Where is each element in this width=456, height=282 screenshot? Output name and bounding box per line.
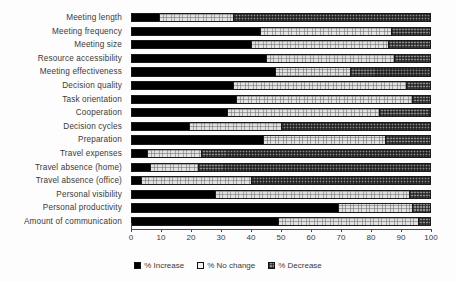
stacked-bar — [131, 95, 431, 104]
stacked-bar — [131, 149, 431, 158]
x-axis-tick — [221, 229, 222, 233]
bar-segment — [379, 109, 430, 116]
bar-segment — [141, 177, 251, 184]
category-label: Travel expenses — [0, 147, 126, 161]
category-label: Personal productivity — [0, 201, 126, 215]
bar-segment — [233, 82, 406, 89]
x-axis-tick — [161, 229, 162, 233]
bar-segment — [281, 123, 430, 130]
bar-segment — [150, 164, 198, 171]
stacked-bar — [131, 203, 431, 212]
legend-label: % No change — [207, 261, 255, 270]
bar-segment — [132, 82, 233, 89]
chart-legend: % Increase% No change% Decrease — [0, 261, 456, 270]
bar-segment — [263, 136, 385, 143]
stacked-bar — [131, 217, 431, 226]
bar-segment — [215, 191, 409, 198]
stacked-bar — [131, 122, 431, 131]
bar-row — [131, 133, 431, 147]
category-label: Preparation — [0, 133, 126, 147]
bar-segment — [409, 191, 430, 198]
bar-row — [131, 161, 431, 175]
x-axis-tick-label: 10 — [157, 233, 166, 242]
bar-segment — [159, 14, 234, 21]
bar-segment — [385, 136, 430, 143]
bar-row — [131, 120, 431, 134]
legend-swatch-icon — [268, 262, 275, 269]
bar-segment — [260, 28, 391, 35]
bar-segment — [236, 96, 412, 103]
bar-segment — [338, 204, 413, 211]
stacked-bar — [131, 27, 431, 36]
stacked-bar — [131, 190, 431, 199]
category-label: Resource accessibility — [0, 52, 126, 66]
bar-segment — [406, 82, 430, 89]
stacked-bar — [131, 108, 431, 117]
stacked-bar — [131, 54, 431, 63]
bar-segment — [412, 204, 430, 211]
category-label: Travel absence (office) — [0, 174, 126, 188]
bar-row — [131, 79, 431, 93]
bar-segment — [201, 150, 430, 157]
bar-segment — [391, 28, 430, 35]
bar-row — [131, 93, 431, 107]
legend-label: % Increase — [144, 261, 184, 270]
x-axis-tick-label: 60 — [307, 233, 316, 242]
x-axis-tick-label: 0 — [129, 233, 133, 242]
bar-segment — [132, 136, 263, 143]
bar-segment — [198, 164, 430, 171]
bar-row — [131, 201, 431, 215]
stacked-bar — [131, 135, 431, 144]
bar-segment — [132, 177, 141, 184]
category-label: Meeting effectiveness — [0, 65, 126, 79]
x-axis-tick — [191, 229, 192, 233]
bar-segment — [418, 218, 430, 225]
category-label: Cooperation — [0, 106, 126, 120]
x-axis-tick-label: 90 — [397, 233, 406, 242]
plot-area — [131, 11, 431, 229]
stacked-bar — [131, 67, 431, 76]
category-label: Meeting size — [0, 38, 126, 52]
bar-segment — [275, 68, 350, 75]
bar-segment — [388, 41, 430, 48]
stacked-bar — [131, 40, 431, 49]
bar-segment — [132, 123, 189, 130]
category-label: Decision cycles — [0, 120, 126, 134]
bar-row — [131, 188, 431, 202]
legend-item: % Increase — [134, 261, 184, 270]
stacked-bar — [131, 163, 431, 172]
bar-segment — [132, 204, 338, 211]
x-axis-tick — [431, 229, 432, 233]
category-label: Meeting length — [0, 11, 126, 25]
bar-segment — [132, 14, 159, 21]
bar-segment — [132, 191, 215, 198]
bar-row — [131, 147, 431, 161]
x-axis-tick — [311, 229, 312, 233]
bar-segment — [350, 68, 430, 75]
x-axis-tick-label: 70 — [337, 233, 346, 242]
bar-segment — [227, 109, 379, 116]
stacked-bar — [131, 13, 431, 22]
category-label: Meeting frequency — [0, 25, 126, 39]
category-label: Decision quality — [0, 79, 126, 93]
bar-segment — [278, 218, 418, 225]
x-axis-tick — [401, 229, 402, 233]
bar-row — [131, 65, 431, 79]
legend-swatch-icon — [134, 262, 141, 269]
category-label: Amount of communication — [0, 215, 126, 229]
x-axis-tick-label: 30 — [217, 233, 226, 242]
bar-row — [131, 11, 431, 25]
category-label: Task orientation — [0, 93, 126, 107]
bar-row — [131, 174, 431, 188]
category-label: Travel absence (home) — [0, 161, 126, 175]
category-label: Personal visibility — [0, 188, 126, 202]
legend-label: % Decrease — [278, 261, 322, 270]
bar-row — [131, 215, 431, 229]
bar-segment — [251, 177, 430, 184]
bar-row — [131, 106, 431, 120]
bar-segment — [132, 41, 251, 48]
stacked-bar — [131, 176, 431, 185]
bar-segment — [147, 150, 201, 157]
legend-item: % Decrease — [268, 261, 322, 270]
stacked-bar — [131, 81, 431, 90]
